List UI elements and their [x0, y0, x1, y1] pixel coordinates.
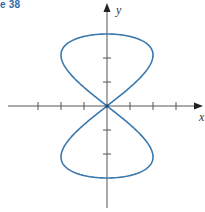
x-axis-label: x: [198, 110, 205, 124]
x-axis-arrow-icon: [194, 103, 203, 110]
y-axis-arrow-icon: [104, 3, 111, 12]
y-axis-label: y: [115, 3, 122, 17]
origin-point: [105, 104, 109, 108]
figure-eight-plot: x y: [0, 0, 205, 212]
